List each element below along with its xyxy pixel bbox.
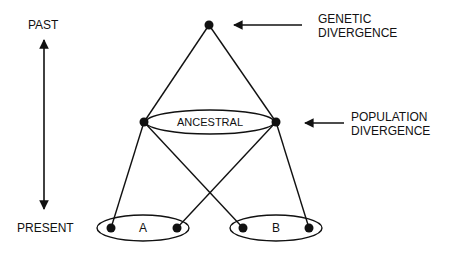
population-b-node-right <box>305 224 314 233</box>
past-label: PAST <box>28 18 59 32</box>
population-divergence-label-line2: DIVERGENCE <box>351 124 430 138</box>
ancestral-label: ANCESTRAL <box>177 116 243 128</box>
population-b-label: B <box>272 221 280 235</box>
population-a-node-right <box>173 224 182 233</box>
ancestral-node-right <box>272 118 281 127</box>
genetic-divergence-node <box>205 21 214 30</box>
population-b-node-left <box>239 224 248 233</box>
genetic-divergence-label-line1: GENETIC <box>318 12 372 26</box>
genetic-divergence-label-line2: DIVERGENCE <box>318 26 397 40</box>
divergence-diagram: PAST PRESENT ANCESTRAL A B GENETIC DIVER… <box>0 0 451 254</box>
population-a-label: A <box>139 221 147 235</box>
population-a-node-left <box>107 224 116 233</box>
present-label: PRESENT <box>17 221 74 235</box>
population-divergence-label-line1: POPULATION <box>351 110 427 124</box>
ancestral-node-left <box>140 118 149 127</box>
